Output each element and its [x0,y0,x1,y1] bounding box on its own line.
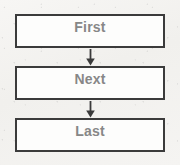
flow-node-next[interactable]: Next [15,66,165,100]
flow-node-last[interactable]: Last [15,118,165,152]
flow-node-first-label: First [74,16,105,34]
flow-node-next-label: Next [74,68,105,86]
connector-next-to-last [0,100,180,118]
connector-first-to-next [0,48,180,66]
flow-node-first[interactable]: First [15,14,165,48]
flow-node-last-label: Last [75,120,105,138]
arrow-down-icon [86,101,95,118]
arrow-down-icon [86,49,95,66]
flowchart-canvas: First Next Last [0,0,180,165]
